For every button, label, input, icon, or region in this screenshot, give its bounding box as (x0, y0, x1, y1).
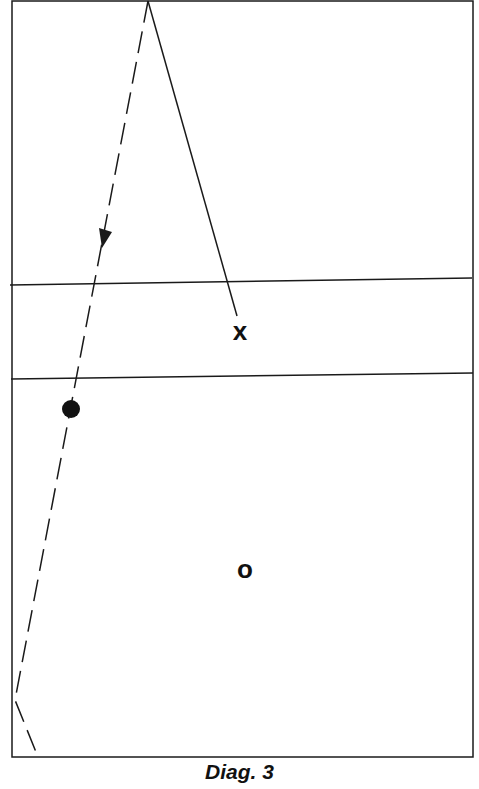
ball-icon (62, 400, 80, 418)
court-diagram: x o (0, 0, 479, 789)
x-player-marker: x (233, 316, 248, 346)
upper-zone-line (10, 278, 472, 285)
o-player-marker: o (237, 554, 253, 584)
lower-zone-line (11, 373, 473, 379)
diagram-caption: Diag. 3 (0, 760, 479, 784)
player-run-path (148, 1, 237, 316)
court-boundary (12, 1, 473, 757)
